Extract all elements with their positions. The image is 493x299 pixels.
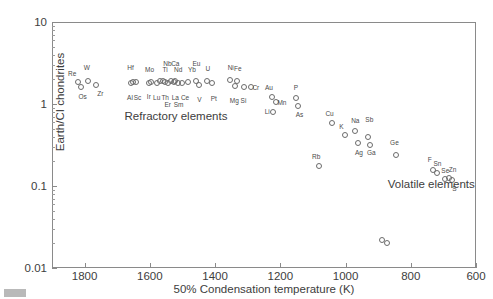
x-tick-label: 1200 [268, 270, 294, 282]
scatter-chart-figure: Earth/CI chondrites 50% Condensation tem… [0, 0, 493, 299]
x-tick-mark [150, 263, 151, 268]
x-tick-mark [215, 263, 216, 268]
data-point [185, 79, 191, 85]
x-tick-label: 600 [466, 270, 485, 282]
y-minor-tick [52, 219, 55, 220]
data-point [78, 84, 84, 90]
x-tick-mark [346, 263, 347, 268]
y-axis-title: Earth/CI chondrites [54, 12, 66, 192]
data-point-label: Ge [390, 140, 399, 147]
data-point-label: Zr [97, 91, 103, 98]
data-point [365, 134, 371, 140]
y-tick-mark [52, 268, 57, 269]
data-point-label: Sn [434, 161, 442, 168]
data-point-label: Ga [367, 150, 376, 157]
data-point [352, 128, 358, 134]
x-tick-label: 1000 [333, 270, 359, 282]
data-point [241, 84, 247, 90]
data-point-label: Os [79, 94, 87, 101]
y-minor-tick [52, 117, 55, 118]
data-point-label: As [296, 112, 304, 119]
x-axis-title: 50% Condensation temperature (K) [52, 283, 476, 295]
data-point-label: Sb [365, 117, 373, 124]
y-minor-tick [52, 211, 55, 212]
data-point-label: Ce [181, 94, 189, 101]
data-point-label: Hf [127, 65, 134, 72]
y-minor-tick [52, 30, 55, 31]
data-point [85, 78, 91, 84]
data-point [393, 152, 399, 158]
y-minor-tick [52, 35, 55, 36]
data-point-label: F [428, 157, 432, 164]
data-point [270, 109, 276, 115]
y-tick-label: 0.01 [25, 262, 47, 274]
data-point-label: Fe [234, 65, 242, 72]
data-point-label: Th [161, 94, 169, 101]
x-tick-mark [85, 263, 86, 268]
data-point-label: Mg [230, 98, 239, 105]
plot-area [52, 22, 476, 268]
data-point-label: Ag [355, 150, 363, 157]
data-point [295, 103, 301, 109]
data-point-label: Zn [449, 167, 457, 174]
data-point-label: Re [68, 70, 76, 77]
data-point [379, 237, 385, 243]
data-point [196, 82, 202, 88]
data-point [342, 132, 348, 138]
x-tick-mark [280, 263, 281, 268]
y-minor-tick [52, 229, 55, 230]
chart-annotation: Refractory elements [124, 110, 227, 122]
data-point-label: U [206, 65, 211, 72]
data-point-label: Li [265, 109, 270, 116]
data-point [316, 163, 322, 169]
y-minor-tick [52, 190, 55, 191]
data-point [154, 80, 160, 86]
data-point-label: Yb [188, 66, 196, 73]
y-tick-label: 10 [34, 16, 47, 28]
data-point [329, 120, 335, 126]
data-point-label: La [172, 94, 179, 101]
footer-color-swatch [4, 289, 26, 297]
data-point-label: V [197, 97, 201, 104]
data-point-label: K [339, 123, 343, 130]
data-point-label: Na [351, 118, 359, 125]
x-tick-mark [476, 263, 477, 268]
y-minor-tick [52, 65, 55, 66]
data-point-label: Mn [277, 99, 286, 106]
x-tick-label: 1800 [72, 270, 98, 282]
data-point-label: Pt [211, 96, 217, 103]
data-point-label: Si [241, 98, 247, 105]
data-point-label: Ni [228, 64, 234, 71]
y-minor-tick [52, 112, 55, 113]
y-tick-label: 0.1 [31, 180, 47, 192]
data-point-label: Au [265, 84, 273, 91]
data-point-label: Al [127, 95, 133, 102]
x-tick-label: 1400 [202, 270, 228, 282]
y-minor-tick [52, 199, 55, 200]
data-point [133, 79, 139, 85]
x-tick-label: 1600 [137, 270, 163, 282]
data-point [293, 95, 299, 101]
y-minor-tick [52, 47, 55, 48]
data-point-label: Eu [193, 60, 201, 67]
data-point [209, 80, 215, 86]
y-minor-tick [52, 204, 55, 205]
x-tick-label: 800 [401, 270, 420, 282]
y-minor-tick [52, 108, 55, 109]
y-tick-mark [52, 22, 57, 23]
data-point-label: Er [165, 102, 172, 109]
data-point-label: P [294, 84, 298, 91]
y-minor-tick [52, 147, 55, 148]
data-point-label: Nd [174, 66, 182, 73]
data-point [355, 140, 361, 146]
y-minor-tick [52, 161, 55, 162]
y-tick-label: 1 [41, 98, 47, 110]
data-point-label: Sc [134, 95, 142, 102]
data-point-label: Sm [174, 102, 184, 109]
y-minor-tick [52, 122, 55, 123]
y-minor-tick [52, 79, 55, 80]
data-point-label: Cr [252, 84, 259, 91]
y-minor-tick [52, 26, 55, 27]
data-point-label: Lu [153, 94, 160, 101]
y-tick-mark [52, 186, 57, 187]
